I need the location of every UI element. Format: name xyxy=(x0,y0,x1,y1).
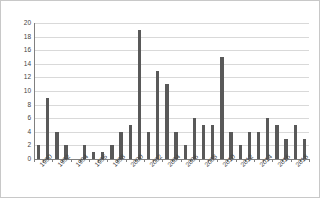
x-tick-mark xyxy=(52,159,53,162)
x-tick-mark xyxy=(199,159,200,162)
bar[interactable] xyxy=(46,98,49,159)
x-axis-tick-labels: 1990199219941996199820002002200420062008… xyxy=(34,163,309,197)
y-tick-label: 2 xyxy=(17,142,31,149)
bar[interactable] xyxy=(294,125,297,159)
x-tick-mark xyxy=(236,159,237,162)
y-tick-label: 4 xyxy=(17,129,31,136)
bar[interactable] xyxy=(202,125,205,159)
x-tick-mark xyxy=(89,159,90,162)
bars-layer xyxy=(34,23,309,159)
bar[interactable] xyxy=(220,57,223,159)
bar[interactable] xyxy=(92,152,95,159)
x-tick-mark xyxy=(272,159,273,162)
bar[interactable] xyxy=(257,132,260,159)
y-axis-tick-labels: 02468101214161820 xyxy=(12,1,31,198)
bar[interactable] xyxy=(156,71,159,159)
x-tick-mark xyxy=(181,159,182,162)
bar[interactable] xyxy=(37,145,40,159)
y-tick-label: 10 xyxy=(17,88,31,95)
bar[interactable] xyxy=(239,145,242,159)
bar[interactable] xyxy=(129,125,132,159)
x-tick-mark xyxy=(162,159,163,162)
bar-chart-figure: Numbers of birds 02468101214161820 19901… xyxy=(0,0,320,198)
bar[interactable] xyxy=(55,132,58,159)
y-tick-label: 20 xyxy=(17,20,31,27)
y-tick-label: 14 xyxy=(17,61,31,68)
y-tick-label: 16 xyxy=(17,47,31,54)
x-tick-mark xyxy=(107,159,108,162)
x-tick-mark xyxy=(254,159,255,162)
bar[interactable] xyxy=(184,145,187,159)
x-tick-mark xyxy=(71,159,72,162)
x-tick-mark xyxy=(34,159,35,162)
x-tick-mark xyxy=(291,159,292,162)
x-tick-mark xyxy=(144,159,145,162)
bar[interactable] xyxy=(165,84,168,159)
bar[interactable] xyxy=(138,30,141,159)
x-tick-mark xyxy=(217,159,218,162)
y-tick-label: 6 xyxy=(17,115,31,122)
y-tick-label: 8 xyxy=(17,102,31,109)
x-tick-mark xyxy=(126,159,127,162)
y-tick-label: 18 xyxy=(17,34,31,41)
bar[interactable] xyxy=(275,125,278,159)
y-tick-label: 12 xyxy=(17,74,31,81)
bar[interactable] xyxy=(147,132,150,159)
x-tick-mark xyxy=(309,159,310,162)
bar[interactable] xyxy=(110,145,113,159)
y-tick-label: 0 xyxy=(17,156,31,163)
